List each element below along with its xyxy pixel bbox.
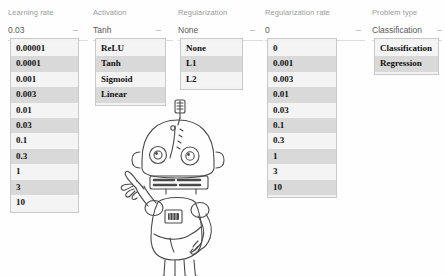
option-learning-rate-0.001[interactable]: 0.001	[11, 72, 78, 87]
column-regularization-rate: Regularization rate 0	[265, 8, 365, 41]
option-learning-rate-0.03[interactable]: 0.03	[11, 118, 78, 133]
option-learning-rate-0.3[interactable]: 0.3	[11, 149, 78, 164]
robot-line-drawing	[118, 98, 248, 276]
select-regularization-rate-value: 0	[265, 25, 270, 36]
select-regularization-value: None	[178, 25, 198, 36]
select-learning-rate-value: 0.03	[8, 25, 25, 36]
option-regularization-rate-0.003[interactable]: 0.003	[268, 72, 336, 87]
label-activation: Activation	[93, 8, 173, 18]
column-problem-type: Problem type Classification	[372, 8, 442, 41]
label-learning-rate: Learning rate	[8, 8, 88, 18]
option-regularization-rate-0.1[interactable]: 0.1	[268, 118, 336, 133]
column-regularization: Regularization None	[178, 8, 263, 41]
option-learning-rate-0.003[interactable]: 0.003	[11, 87, 78, 102]
option-learning-rate-1[interactable]: 1	[11, 164, 78, 179]
chevron-down-icon	[437, 30, 442, 31]
option-regularization-rate-0.001[interactable]: 0.001	[268, 56, 336, 71]
option-regularization-None[interactable]: None	[181, 41, 242, 56]
chevron-down-icon	[356, 30, 361, 31]
label-problem-type: Problem type	[372, 8, 442, 18]
option-learning-rate-10[interactable]: 10	[11, 195, 78, 210]
option-regularization-rate-0.01[interactable]: 0.01	[268, 87, 336, 102]
option-problem-type-Classification[interactable]: Classification	[375, 41, 438, 56]
option-list-regularization[interactable]: NoneL1L2	[180, 38, 243, 90]
option-regularization-rate-3[interactable]: 3	[268, 164, 336, 179]
hyperparameter-panel: Learning rate 0.03 Activation Tanh Regul…	[0, 0, 445, 276]
option-regularization-rate-10[interactable]: 10	[268, 180, 336, 195]
select-problem-type-value: Classification	[372, 25, 422, 36]
select-activation-value: Tanh	[93, 25, 111, 36]
column-learning-rate: Learning rate 0.03	[8, 8, 88, 41]
option-learning-rate-0.1[interactable]: 0.1	[11, 133, 78, 148]
label-regularization-rate: Regularization rate	[265, 8, 365, 18]
option-list-problem-type[interactable]: ClassificationRegression	[374, 38, 439, 75]
option-activation-ReLU[interactable]: ReLU	[96, 41, 165, 56]
option-regularization-L1[interactable]: L1	[181, 56, 242, 71]
column-activation: Activation Tanh	[93, 8, 173, 41]
option-regularization-rate-1[interactable]: 1	[268, 149, 336, 164]
chevron-down-icon	[250, 30, 255, 31]
chevron-down-icon	[156, 30, 161, 31]
option-regularization-L2[interactable]: L2	[181, 72, 242, 87]
option-learning-rate-0.00001[interactable]: 0.00001	[11, 41, 78, 56]
option-learning-rate-3[interactable]: 3	[11, 180, 78, 195]
option-learning-rate-0.01[interactable]: 0.01	[11, 103, 78, 118]
option-list-activation[interactable]: ReLUTanhSigmoidLinear	[95, 38, 166, 106]
option-list-regularization-rate[interactable]: 00.0010.0030.010.030.10.31310	[267, 38, 337, 198]
option-regularization-rate-0[interactable]: 0	[268, 41, 336, 56]
option-problem-type-Regression[interactable]: Regression	[375, 56, 438, 71]
option-activation-Sigmoid[interactable]: Sigmoid	[96, 72, 165, 87]
chevron-down-icon	[73, 30, 78, 31]
option-list-learning-rate[interactable]: 0.000010.00010.0010.0030.010.030.10.3131…	[10, 38, 79, 213]
option-learning-rate-0.0001[interactable]: 0.0001	[11, 56, 78, 71]
option-regularization-rate-0.03[interactable]: 0.03	[268, 103, 336, 118]
option-regularization-rate-0.3[interactable]: 0.3	[268, 133, 336, 148]
option-activation-Tanh[interactable]: Tanh	[96, 56, 165, 71]
label-regularization: Regularization	[178, 8, 263, 18]
